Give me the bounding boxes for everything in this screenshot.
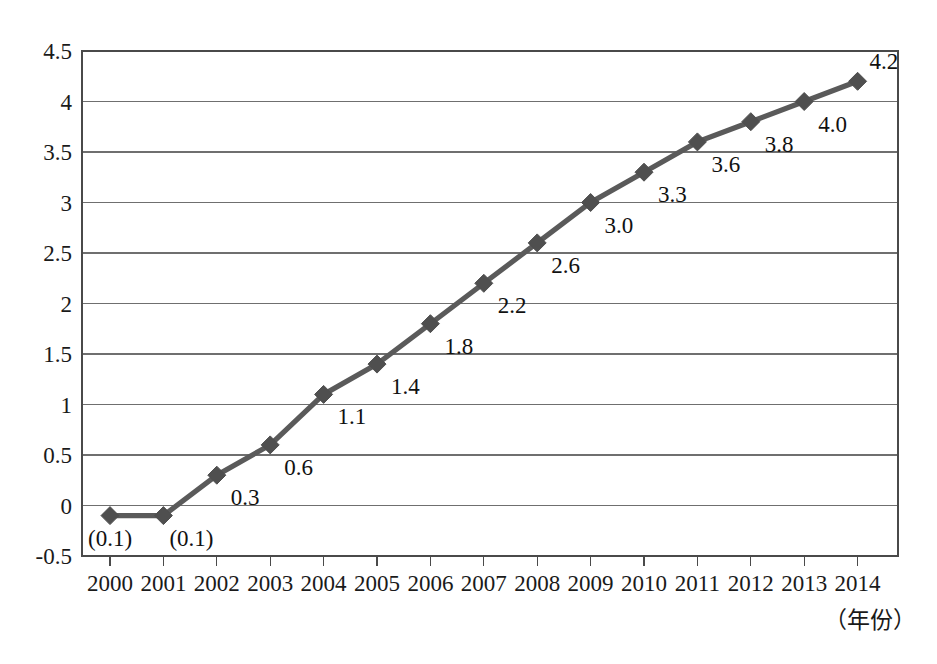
- data-point-label: 0.6: [284, 455, 313, 480]
- x-axis-tick-label: 2003: [247, 571, 293, 596]
- data-point-label: 4.2: [870, 49, 899, 74]
- data-point-label: 2.2: [498, 293, 527, 318]
- y-axis-tick-label: 2: [61, 292, 73, 317]
- x-axis-tick-label: 2012: [728, 571, 774, 596]
- data-point-label: (0.1): [169, 526, 213, 551]
- data-point-label: 2.6: [551, 253, 580, 278]
- y-axis-tick-label: 4: [61, 90, 73, 115]
- data-point-label: 3.0: [605, 213, 634, 238]
- y-axis-tick-label: 3.5: [43, 140, 72, 165]
- x-axis-tick-label: 2013: [781, 571, 827, 596]
- x-axis-tick-label: 2010: [621, 571, 667, 596]
- data-point-label: 3.6: [711, 152, 740, 177]
- x-axis-tick-label: 2014: [835, 571, 882, 596]
- y-axis-tick-label: 0.5: [43, 443, 72, 468]
- data-point-label: (0.1): [88, 526, 132, 551]
- x-axis-tick-labels: 2000200120022003200420052006200720082009…: [87, 571, 881, 596]
- x-axis-tick-label: 2011: [675, 571, 720, 596]
- x-axis-tick-label: 2004: [301, 571, 348, 596]
- x-axis-caption: （年份）: [824, 608, 916, 633]
- x-axis-tick-label: 2000: [87, 571, 133, 596]
- x-axis-tick-label: 2009: [568, 571, 614, 596]
- y-axis-tick-label: -0.5: [36, 544, 72, 569]
- x-axis-tick-label: 2005: [354, 571, 400, 596]
- data-point-label: 0.3: [231, 485, 260, 510]
- x-axis-tick-label: 2007: [461, 571, 507, 596]
- line-chart: 4.543.532.521.510.50-0.5 200020012002200…: [0, 0, 937, 664]
- y-axis-tick-label: 4.5: [43, 39, 72, 64]
- data-point-label: 1.1: [338, 404, 367, 429]
- chart-canvas: 4.543.532.521.510.50-0.5 200020012002200…: [0, 0, 937, 664]
- y-axis-tick-label: 1.5: [43, 342, 72, 367]
- y-axis-tick-label: 1: [61, 393, 73, 418]
- data-point-label: 3.8: [765, 132, 794, 157]
- y-axis-tick-label: 3: [61, 191, 73, 216]
- x-axis-tick-label: 2001: [140, 571, 186, 596]
- data-point-label: 1.8: [444, 334, 473, 359]
- x-axis-tick-label: 2002: [194, 571, 240, 596]
- data-point-label: 1.4: [391, 374, 420, 399]
- y-axis-tick-label: 0: [61, 494, 73, 519]
- x-axis-tick-label: 2006: [407, 571, 453, 596]
- x-axis-tick-label: 2008: [514, 571, 560, 596]
- data-point-label: 4.0: [818, 112, 847, 137]
- data-point-label: 3.3: [658, 182, 687, 207]
- y-axis-tick-label: 2.5: [43, 241, 72, 266]
